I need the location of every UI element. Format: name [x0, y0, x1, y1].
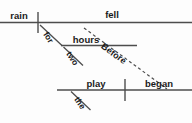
- diagram-svg: rain fell for hours two Before play bega…: [0, 0, 192, 123]
- word-play: play: [86, 78, 106, 89]
- word-for: for: [41, 30, 56, 46]
- word-the: the: [72, 95, 87, 111]
- word-fell: fell: [105, 9, 119, 20]
- word-rain: rain: [10, 10, 28, 21]
- word-two: two: [64, 50, 80, 68]
- word-began: began: [145, 78, 173, 89]
- sentence-diagram-canvas: rain fell for hours two Before play bega…: [0, 0, 192, 123]
- word-hours: hours: [73, 34, 99, 45]
